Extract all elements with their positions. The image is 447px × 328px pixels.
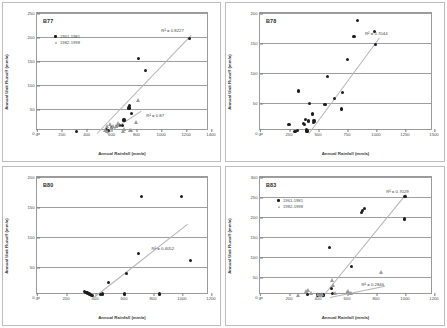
r-squared-annotation: R² = 0.4052 bbox=[152, 246, 175, 251]
data-point bbox=[107, 281, 110, 284]
data-point bbox=[356, 19, 359, 22]
data-point bbox=[101, 292, 104, 295]
x-axis-tick-label: 1200 bbox=[429, 296, 438, 301]
y-axis-tick-label: 150 bbox=[251, 235, 261, 240]
x-axis-tick-label: 1000 bbox=[177, 296, 186, 301]
data-point bbox=[326, 75, 329, 78]
x-axis-tick-label: 250 bbox=[286, 132, 293, 137]
open-triangle-icon bbox=[51, 41, 60, 44]
data-point bbox=[128, 104, 131, 107]
r-squared-annotation: R² = 0.8227 bbox=[161, 28, 184, 33]
gridline bbox=[37, 237, 207, 238]
gridline bbox=[37, 13, 207, 14]
data-point bbox=[320, 292, 324, 296]
x-axis-tick-label: 750 bbox=[344, 132, 351, 137]
data-point bbox=[333, 97, 336, 100]
panel-label: B78 bbox=[266, 18, 277, 24]
y-axis-title: Annual Unit Runoff (mm/a) bbox=[4, 194, 9, 298]
y-axis-tick-label: 100 bbox=[28, 235, 38, 240]
data-point bbox=[374, 43, 377, 46]
data-point bbox=[287, 123, 290, 126]
y-axis-tick-label: 250 bbox=[28, 11, 38, 16]
data-point bbox=[363, 207, 366, 210]
y-axis-title: Annual Unit Runoff (mm/a) bbox=[227, 30, 232, 134]
gridline bbox=[260, 13, 431, 14]
data-point bbox=[125, 272, 128, 275]
data-point bbox=[328, 246, 331, 249]
data-point bbox=[341, 91, 344, 94]
plot-area: 0501001502002500200400600800100012001400… bbox=[36, 12, 208, 130]
data-point bbox=[309, 291, 313, 295]
chart-legend: 1961-19811982-1998 bbox=[274, 197, 303, 209]
data-point bbox=[136, 98, 140, 102]
x-axis-tick-label: 200 bbox=[286, 296, 293, 301]
data-point bbox=[116, 123, 120, 127]
x-axis-tick-label: 400 bbox=[83, 132, 90, 137]
data-point bbox=[105, 129, 109, 133]
data-point bbox=[350, 265, 353, 268]
y-axis-title: Annual Unit Runoff (mm/a) bbox=[227, 194, 232, 298]
data-point bbox=[140, 195, 143, 198]
data-point bbox=[330, 287, 333, 290]
x-axis-tick-label: 600 bbox=[121, 296, 128, 301]
y-axis-tick-label: 50 bbox=[30, 107, 37, 112]
chart-panel-b78: Annual Unit Runoff (mm/a)Annual Rainfall… bbox=[225, 2, 445, 162]
data-point bbox=[137, 252, 140, 255]
gridline bbox=[260, 103, 431, 104]
gridline bbox=[37, 267, 207, 268]
r-squared-annotation: R² = 0.7029 bbox=[386, 189, 409, 194]
data-point bbox=[308, 102, 311, 105]
data-point bbox=[333, 291, 337, 295]
data-point bbox=[297, 89, 300, 92]
y-axis-tick-label: 200 bbox=[251, 11, 261, 16]
data-point bbox=[188, 37, 191, 40]
chart-legend: 1961-19811982-1998 bbox=[51, 33, 80, 45]
x-axis-tick-label: 1000 bbox=[371, 132, 380, 137]
data-point bbox=[313, 119, 316, 122]
plot-area: 050100150200020040060080010001200B80R² =… bbox=[36, 176, 208, 294]
data-point bbox=[352, 35, 355, 38]
data-point bbox=[323, 103, 326, 106]
legend-entry: 1982-1998 bbox=[274, 203, 303, 209]
data-point bbox=[123, 292, 126, 295]
data-point bbox=[75, 130, 78, 133]
data-point bbox=[379, 270, 383, 274]
y-axis-tick-label: 50 bbox=[253, 101, 260, 106]
y-axis-tick-label: 100 bbox=[251, 71, 261, 76]
data-point bbox=[158, 292, 161, 295]
data-point bbox=[189, 259, 192, 262]
gridline bbox=[37, 61, 207, 62]
data-point bbox=[403, 195, 406, 198]
x-axis-tick-label: 600 bbox=[344, 296, 351, 301]
data-point bbox=[346, 58, 349, 61]
gridline bbox=[37, 109, 207, 110]
data-point bbox=[331, 283, 335, 287]
legend-label: 1982-1998 bbox=[60, 40, 80, 45]
gridline bbox=[260, 177, 431, 178]
x-axis-title: Annual Rainfall (mm/a) bbox=[259, 151, 432, 156]
panel-label: B80 bbox=[43, 182, 54, 188]
scatter-plot-figure: Annual Unit Runoff (mm/a)Annual Rainfall… bbox=[0, 0, 447, 328]
x-axis-tick-label: 1000 bbox=[157, 132, 166, 137]
gridline bbox=[37, 207, 207, 208]
x-axis-tick-label: 1400 bbox=[206, 132, 215, 137]
x-axis-tick-label: 0 bbox=[259, 132, 261, 137]
data-point bbox=[134, 120, 138, 124]
y-axis-tick-label: 50 bbox=[253, 275, 260, 280]
y-axis-tick-label: 50 bbox=[30, 265, 37, 270]
x-axis-tick-label: 200 bbox=[63, 296, 70, 301]
r-squared-annotation: R² = 0.2846 bbox=[362, 282, 385, 287]
r-squared-annotation: R² = 0.7044 bbox=[365, 31, 388, 36]
trend-line bbox=[308, 37, 380, 134]
x-axis-tick-label: 800 bbox=[150, 296, 157, 301]
data-point bbox=[303, 123, 306, 126]
gridline bbox=[37, 177, 207, 178]
legend-label: 1961-1981 bbox=[283, 198, 303, 203]
data-point bbox=[311, 113, 314, 116]
y-axis-tick-label: 250 bbox=[251, 195, 261, 200]
gridline bbox=[260, 237, 431, 238]
x-axis-tick-label: 1250 bbox=[400, 132, 409, 137]
x-axis-title: Annual Rainfall (mm/a) bbox=[259, 315, 432, 320]
data-point bbox=[307, 119, 310, 122]
gridline bbox=[260, 73, 431, 74]
